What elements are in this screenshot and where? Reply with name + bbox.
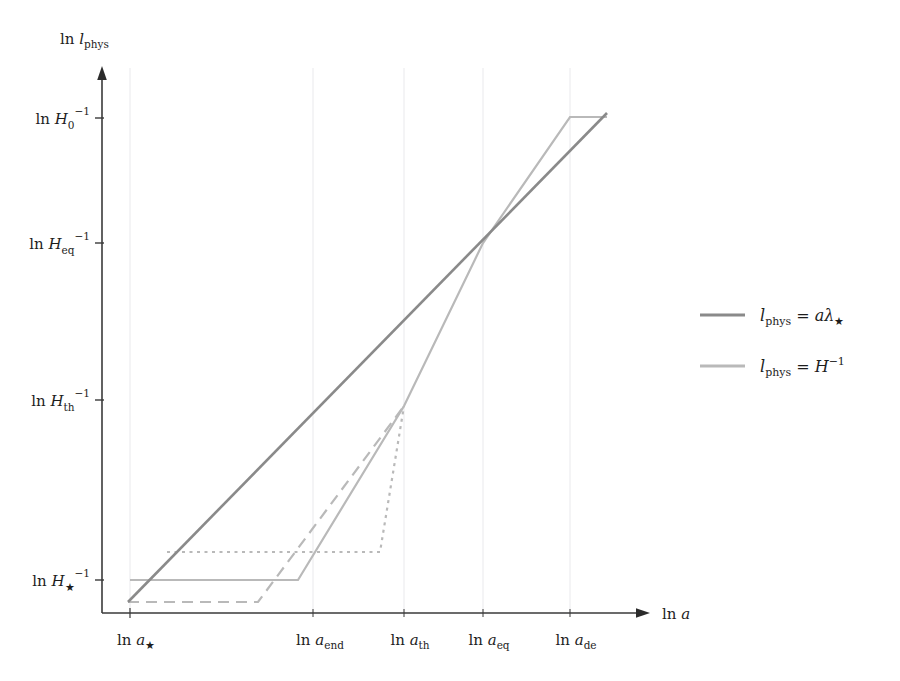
legend-entry-lambda[interactable]: lphys = aλ★ [700, 306, 844, 328]
y-axis-title: ln lphys [60, 30, 109, 50]
x-tick-label-a-de: ln ade [555, 631, 596, 651]
figure-caption-partial [34, 664, 874, 680]
legend-label-hubble: lphys = H−1 [760, 355, 845, 379]
scale-factor-vs-physical-length-plot: ln H0−1 ln Heq−1 ln Hth−1 ln H★−1 ln a★ … [0, 0, 900, 681]
x-axis-arrowhead [636, 608, 650, 618]
x-tick-label-a-th: ln ath [390, 631, 429, 651]
hubble-radius-dotted-curve [167, 406, 404, 552]
x-tick-label-a-star: ln a★ [117, 631, 155, 651]
legend: lphys = aλ★ lphys = H−1 [700, 306, 845, 379]
x-tick-label-a-eq: ln aeq [468, 631, 509, 651]
comoving-wavelength-line [128, 113, 607, 602]
x-tick-labels: ln a★ ln aend ln ath ln aeq ln ade [117, 631, 597, 651]
y-tick-label-Heq: ln Heq−1 [29, 230, 90, 256]
x-tick-label-a-end: ln aend [296, 631, 344, 651]
y-tick-label-H0: ln H0−1 [36, 105, 91, 131]
y-tick-label-Hstar: ln H★−1 [32, 567, 90, 593]
y-tick-labels: ln H0−1 ln Heq−1 ln Hth−1 ln H★−1 [29, 105, 90, 593]
legend-entry-hubble[interactable]: lphys = H−1 [700, 355, 845, 379]
figure-canvas: ln H0−1 ln Heq−1 ln Hth−1 ln H★−1 ln a★ … [0, 0, 900, 681]
hubble-radius-dashed-curve [128, 406, 404, 602]
legend-label-lambda: lphys = aλ★ [760, 306, 844, 328]
x-axis-title: ln a [662, 605, 690, 623]
axes [95, 66, 650, 618]
y-axis-arrowhead [97, 66, 107, 80]
y-tick-label-Hth: ln Hth−1 [31, 387, 90, 413]
